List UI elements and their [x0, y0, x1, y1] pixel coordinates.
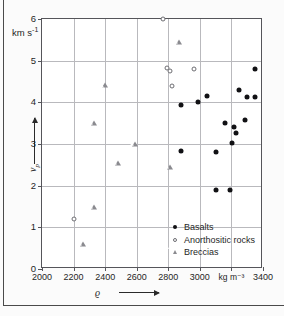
x-tick-label: 2000 [32, 273, 52, 282]
data-point [223, 120, 228, 125]
open-triangle-icon [167, 164, 173, 169]
filled-circle-icon [178, 148, 183, 153]
open-circle-icon [170, 83, 175, 88]
y-tick [38, 227, 42, 228]
open-triangle-icon [91, 204, 97, 209]
data-point [91, 204, 97, 209]
filled-circle-icon [253, 67, 258, 72]
data-point [234, 130, 239, 135]
data-point [253, 94, 258, 99]
x-tick [263, 267, 264, 271]
data-point [170, 83, 175, 88]
x-tick [231, 267, 232, 271]
data-point [102, 83, 108, 88]
y-tick [38, 144, 42, 145]
filled-circle-icon [223, 120, 228, 125]
data-point [237, 88, 242, 93]
open-circle-icon [167, 68, 172, 73]
data-point [245, 94, 250, 99]
x-tick-label: 3000 [190, 273, 210, 282]
data-point [80, 241, 86, 246]
page-border-left [3, 0, 4, 306]
filled-circle-icon [173, 225, 177, 229]
gridline-horizontal [42, 144, 261, 145]
triangle-inner-icon [89, 122, 93, 125]
legend-label: Anorthositic rocks [184, 234, 255, 247]
y-tick [38, 102, 42, 103]
triangle-inner-icon [89, 205, 93, 208]
data-point [213, 187, 218, 192]
filled-circle-icon [242, 117, 247, 122]
filled-circle-icon [234, 130, 239, 135]
triangle-inner-icon [168, 247, 170, 249]
y-tick-label: 4 [31, 98, 36, 108]
figure-panel: km s-1 vp ϱ 200022002400260028003000kg m… [0, 0, 284, 316]
page-border-bottom [3, 305, 284, 306]
open-triangle-icon [80, 241, 86, 246]
data-point [167, 68, 172, 73]
data-point [132, 142, 138, 147]
filled-circle-icon [213, 187, 218, 192]
filled-circle-icon [253, 94, 258, 99]
x-tick-label: 2200 [64, 273, 84, 282]
open-triangle-icon [132, 142, 138, 147]
y-tick-label: 3 [31, 139, 36, 149]
triangle-inner-icon [100, 84, 104, 87]
legend-marker [170, 246, 180, 259]
data-point [71, 217, 76, 222]
open-triangle-icon [176, 39, 182, 44]
gridline-vertical [74, 19, 75, 267]
open-circle-icon [192, 67, 197, 72]
data-point [213, 150, 218, 155]
triangle-inner-icon [78, 242, 82, 245]
triangle-inner-icon [174, 41, 178, 44]
legend-item: Anorthositic rocks [170, 234, 255, 247]
triangle-inner-icon [130, 143, 134, 146]
data-point [178, 103, 183, 108]
data-point [115, 160, 121, 165]
gridline-vertical [105, 19, 106, 267]
data-point [192, 67, 197, 72]
x-tick [200, 267, 201, 271]
x-tick-label: 3400 [253, 273, 273, 282]
legend-item: Breccias [170, 246, 255, 259]
filled-circle-icon [204, 94, 209, 99]
filled-circle-icon [245, 94, 250, 99]
x-tick [42, 267, 43, 271]
filled-circle-icon [178, 103, 183, 108]
filled-circle-icon [230, 140, 235, 145]
data-point [160, 17, 165, 22]
filled-circle-icon [196, 99, 201, 104]
data-point [230, 140, 235, 145]
data-point [231, 125, 236, 130]
y-axis-unit: km s-1 [12, 26, 38, 38]
y-tick [38, 19, 42, 20]
plot-area: 200022002400260028003000kg m⁻³3400012345… [41, 18, 262, 268]
x-tick-label: 2800 [158, 273, 178, 282]
x-axis-arrow-icon [119, 292, 159, 293]
open-circle-icon [173, 238, 177, 242]
triangle-inner-icon [165, 165, 169, 168]
y-tick-label: 0 [31, 264, 36, 274]
y-tick [38, 61, 42, 62]
y-tick [38, 269, 42, 270]
triangle-inner-icon [113, 162, 117, 165]
gridline-horizontal [42, 61, 261, 62]
open-circle-icon [160, 17, 165, 22]
x-tick [74, 267, 75, 271]
filled-circle-icon [237, 88, 242, 93]
x-tick-label: 2600 [127, 273, 147, 282]
data-point [178, 148, 183, 153]
x-tick-label: 2400 [95, 273, 115, 282]
y-tick-label: 1 [31, 223, 36, 233]
x-tick-label: kg m⁻³ [219, 273, 245, 282]
data-point [242, 117, 247, 122]
open-triangle-icon [91, 120, 97, 125]
data-point [253, 67, 258, 72]
data-point [176, 39, 182, 44]
open-triangle-icon [173, 250, 177, 254]
legend-label: Breccias [184, 246, 219, 259]
data-point [167, 164, 173, 169]
y-axis-symbol: vp [28, 164, 41, 172]
data-point [196, 99, 201, 104]
